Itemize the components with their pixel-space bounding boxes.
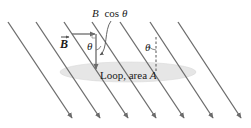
component-label: B cos θ: [92, 7, 128, 19]
theta-label-left: θ: [87, 40, 93, 52]
theta-label-right: θ: [145, 41, 151, 53]
theta-arc-left: [96, 46, 101, 50]
loop-label: Loop, area A: [100, 69, 157, 81]
callout-curve: [100, 21, 111, 55]
flux-diagram: B B cos θ θ θ Loop, area A: [0, 0, 251, 128]
vector-b-label: B: [59, 37, 68, 51]
